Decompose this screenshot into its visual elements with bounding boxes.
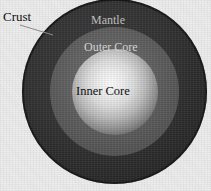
label-crust: Crust [3,10,31,23]
label-mantle: Mantle [91,14,125,26]
label-inner-core: Inner Core [76,85,130,98]
label-outer-core: Outer Core [84,41,138,53]
earth-layers-diagram: Crust Mantle Outer Core Inner Core [0,0,211,191]
